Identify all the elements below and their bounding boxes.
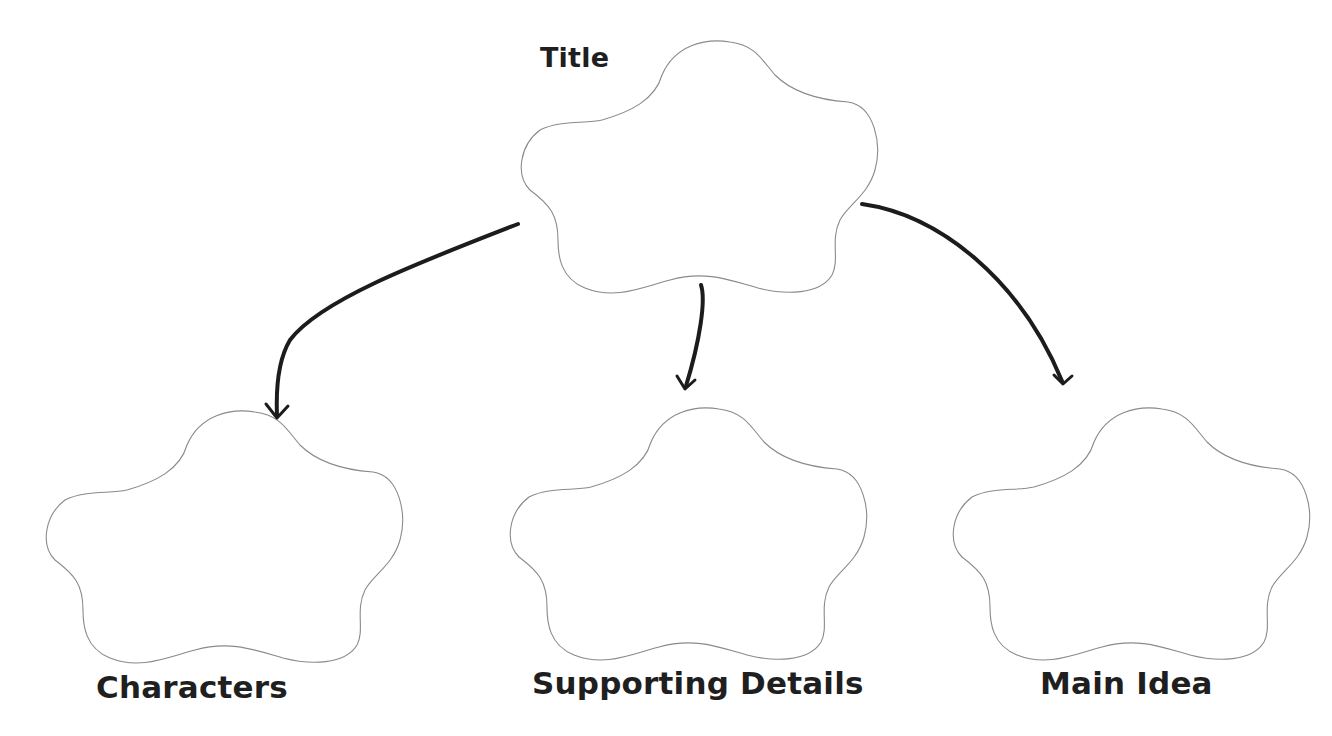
node-label-title: Title [540, 42, 609, 73]
cloud-title[interactable] [521, 41, 877, 293]
node-label-supporting-details: Supporting Details [532, 665, 864, 701]
arrow-title-to-supporting-details [677, 285, 703, 389]
arrow-title-to-characters [266, 224, 518, 418]
cloud-main-idea[interactable] [953, 408, 1309, 660]
node-label-main-idea: Main Idea [1040, 665, 1213, 701]
arrow-title-to-main-idea [862, 204, 1072, 384]
cloud-characters[interactable] [46, 411, 402, 663]
cloud-supporting-details[interactable] [510, 408, 866, 660]
node-label-characters: Characters [96, 669, 288, 705]
organizer-canvas [0, 0, 1332, 736]
